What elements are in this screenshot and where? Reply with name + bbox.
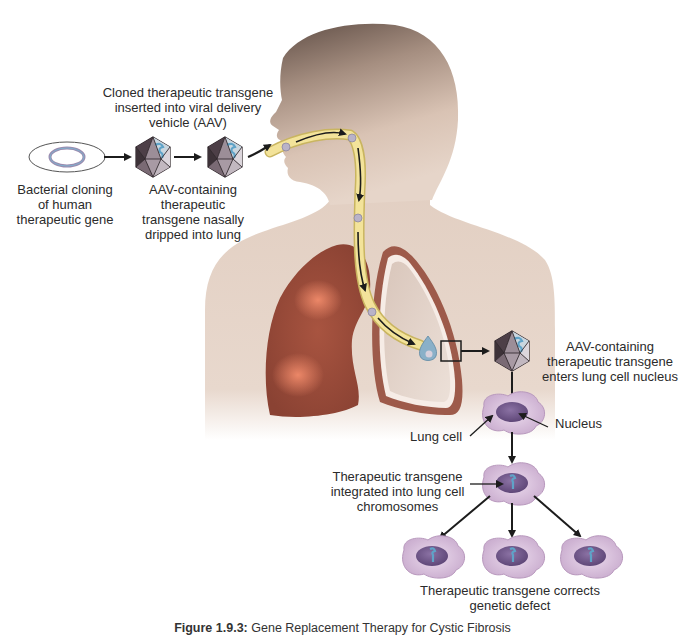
caption-label: Figure 1.9.3: [174, 621, 248, 635]
label-corrects-defect: Therapeutic transgene corrects genetic d… [415, 583, 605, 613]
aav-virus-icon [136, 137, 170, 177]
caption-text: Gene Replacement Therapy for Cystic Fibr… [251, 621, 511, 635]
plasmid-icon [29, 142, 105, 172]
lung-cell-icon [483, 392, 545, 434]
label-cloned-transgene: Cloned therapeutic transgene inserted in… [98, 85, 278, 130]
label-aav-nasal: AAV-containing therapeutic transgene nas… [128, 182, 258, 242]
aav-virus-icon [208, 137, 242, 177]
label-bacterial-cloning: Bacterial cloning of human therapeutic g… [5, 182, 125, 227]
figure-caption: Figure 1.9.3: Gene Replacement Therapy f… [0, 621, 685, 636]
label-lung-cell: Lung cell [410, 429, 462, 444]
label-integrated: Therapeutic transgene integrated into lu… [330, 469, 465, 514]
label-aav-enters-nucleus: AAV-containing therapeutic transgene ent… [530, 339, 685, 384]
label-nucleus: Nucleus [555, 416, 602, 431]
